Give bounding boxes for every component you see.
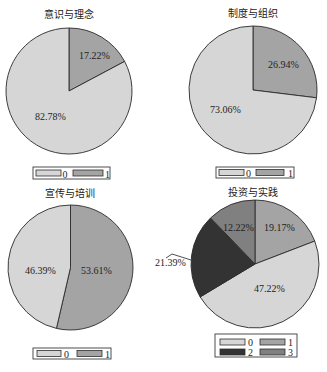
legend-label-0: 0	[64, 349, 69, 360]
legend-swatch-0	[219, 170, 244, 176]
chart-title: 意识与理念	[44, 8, 94, 20]
slice-label-0: 82.78%	[35, 111, 66, 122]
legend-swatch-1	[73, 170, 103, 176]
legend-label-1: 1	[105, 169, 110, 180]
chart-title: 制度与组织	[228, 7, 278, 19]
legend-swatch-3	[260, 349, 285, 355]
legend: 0 1	[216, 167, 294, 179]
slice-label-1: 26.94%	[268, 59, 299, 70]
pie-slices	[189, 26, 317, 154]
legend-swatch-0	[37, 351, 61, 357]
pie-chart-figure: 意识与理念 17.22% 82.78% 0 1 制度与组织 26.94% 73.…	[0, 0, 327, 372]
legend-label-1: 1	[288, 168, 293, 179]
legend-label-3: 3	[288, 347, 293, 358]
chart-title: 投资与实践	[228, 186, 278, 198]
slice-label-0: 73.06%	[210, 104, 241, 115]
legend-swatch-0	[36, 170, 61, 176]
legend-label-1: 1	[105, 349, 110, 360]
pie-slices	[6, 28, 132, 154]
slice-label-1: 53.61%	[81, 265, 112, 276]
slice-label-1: 17.22%	[79, 50, 110, 61]
legend: 0 1	[33, 167, 110, 180]
legend-swatch-1	[77, 351, 102, 357]
slice-label-0: 46.39%	[25, 265, 56, 276]
legend-swatch-1	[260, 339, 285, 345]
slice-label-0: 47.22%	[254, 283, 285, 294]
pie-slices	[191, 200, 319, 328]
legend-swatch-0	[220, 339, 245, 345]
legend-label-0: 0	[63, 169, 68, 180]
legend-swatch-1	[256, 170, 284, 176]
legend-swatch-2	[220, 349, 245, 355]
legend: 0 1 2 3	[215, 334, 297, 358]
slice-label-2: 21.39%	[155, 257, 186, 268]
slice-label-3: 12.22%	[223, 222, 254, 233]
chart-title: 宣传与培训	[45, 187, 95, 199]
legend-label-0: 0	[246, 168, 251, 179]
slice-label-1: 19.17%	[264, 222, 295, 233]
legend: 0 1	[33, 348, 111, 360]
legend-label-2: 2	[248, 347, 253, 358]
